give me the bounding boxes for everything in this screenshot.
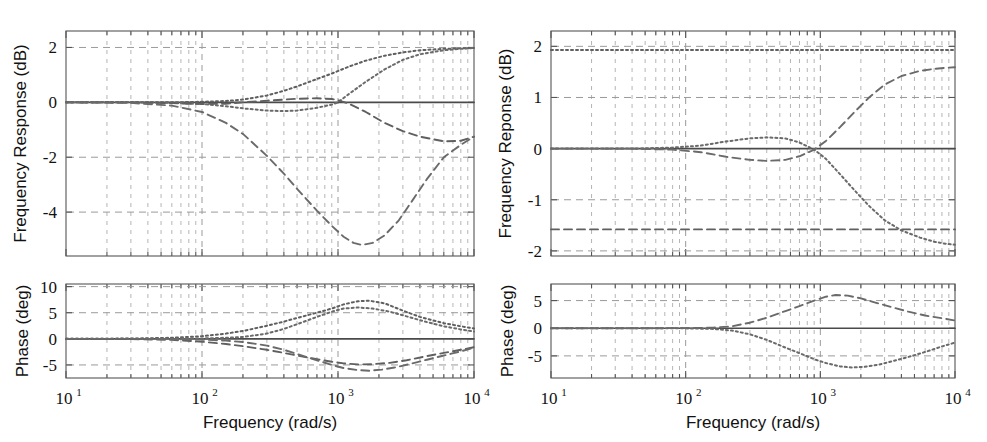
x-axis-title: Frequency (rad/s) (686, 413, 820, 432)
y-tick-label: -5 (43, 356, 57, 375)
x-tick-label: 10 (675, 389, 692, 408)
left-panel: 20-2-4Frequency Response (dB)1050-510110… (0, 0, 494, 442)
x-tick-exponent: 1 (561, 386, 567, 398)
chart-left-phase: 1050-5101102103104Frequency (rad/s)Phase… (13, 278, 490, 432)
left-panel-svg: 20-2-4Frequency Response (dB)1050-510110… (0, 0, 494, 442)
y-tick-label: 5 (534, 292, 543, 311)
curve-dotted-peak-late (66, 308, 474, 339)
curve-dashed-shallow (66, 98, 474, 141)
curve-dashed-deep-notch (66, 102, 474, 245)
y-tick-label: -5 (528, 347, 542, 366)
plot-frame (551, 31, 955, 256)
y-axis-title: Phase (deg) (498, 285, 517, 378)
chart-right-phase: 50-5101102103104Frequency (rad/s)Phase (… (498, 284, 971, 432)
curve-dashed-deep-dip (66, 339, 474, 371)
y-axis-title: Frequency Response (dB) (11, 44, 30, 242)
x-tick-label: 10 (810, 389, 827, 408)
x-tick-exponent: 2 (212, 386, 218, 398)
y-tick-label: -2 (528, 242, 542, 261)
right-panel: 210-1-2Frequency Reponse (dB)50-51011021… (493, 0, 987, 442)
x-tick-label: 10 (541, 389, 558, 408)
x-tick-exponent: 4 (484, 386, 490, 398)
plot-frame (66, 31, 474, 256)
plot-frame (551, 284, 955, 378)
x-tick-exponent: 1 (76, 386, 82, 398)
y-tick-label: 0 (49, 93, 58, 112)
x-tick-label: 10 (192, 389, 209, 408)
y-tick-label: -1 (528, 191, 542, 210)
x-tick-exponent: 2 (696, 386, 702, 398)
x-tick-label: 10 (464, 389, 481, 408)
x-tick-label: 10 (56, 389, 73, 408)
y-tick-label: 1 (534, 88, 543, 107)
y-tick-label: 0 (49, 330, 58, 349)
x-tick-label: 10 (945, 389, 962, 408)
x-tick-exponent: 4 (965, 386, 971, 398)
x-tick-exponent: 3 (831, 386, 837, 398)
y-axis-title: Phase (deg) (13, 285, 32, 378)
y-axis-title: Frequency Reponse (dB) (496, 49, 515, 239)
x-tick-exponent: 3 (348, 386, 354, 398)
y-tick-label: 2 (49, 38, 58, 57)
y-tick-label: 0 (534, 140, 543, 159)
right-panel-svg: 210-1-2Frequency Reponse (dB)50-51011021… (493, 0, 987, 442)
curve-dotted-negative-hump (551, 328, 955, 367)
chart-right-magnitude: 210-1-2Frequency Reponse (dB) (496, 31, 955, 261)
y-tick-label: 5 (49, 304, 58, 323)
curve-dashed-rising (551, 67, 955, 161)
bode-plot-figure: 20-2-4Frequency Response (dB)1050-510110… (0, 0, 987, 442)
chart-left-magnitude: 20-2-4Frequency Response (dB) (11, 31, 474, 256)
y-tick-label: 2 (534, 37, 543, 56)
y-tick-label: 10 (40, 278, 57, 297)
y-tick-label: -2 (43, 148, 57, 167)
y-tick-label: -4 (43, 203, 58, 222)
x-tick-label: 10 (328, 389, 345, 408)
curve-dashed-positive-hump (551, 295, 955, 328)
x-axis-title: Frequency (rad/s) (203, 413, 337, 432)
curve-dashed-shallow-dip (66, 339, 474, 365)
y-tick-label: 0 (534, 319, 543, 338)
